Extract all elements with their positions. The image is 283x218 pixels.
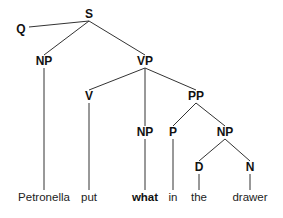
node-d: D	[195, 161, 204, 173]
tree-edge	[89, 68, 145, 90]
tree-edge	[225, 139, 250, 161]
tree-edge	[199, 139, 225, 161]
leaf-what: what	[132, 192, 158, 204]
node-p: P	[169, 126, 177, 138]
node-vp: VP	[137, 55, 153, 67]
leaf-put: put	[81, 192, 97, 204]
node-q: Q	[16, 23, 25, 35]
tree-edge	[29, 21, 89, 27]
tree-edge	[44, 21, 89, 55]
leaf-petronella: Petronella	[18, 192, 70, 204]
tree-edge	[145, 68, 196, 90]
node-s: S	[85, 8, 93, 20]
leaf-in: in	[169, 192, 178, 204]
leaf-the: the	[191, 192, 207, 204]
tree-edge	[89, 21, 145, 55]
node-n: N	[246, 161, 255, 173]
node-v: V	[85, 90, 93, 102]
node-np-object: NP	[137, 126, 154, 138]
tree-edges	[0, 0, 283, 218]
node-pp: PP	[188, 90, 204, 102]
tree-edge	[196, 103, 225, 126]
node-np-pp-object: NP	[217, 126, 234, 138]
node-np-subject: NP	[36, 55, 53, 67]
tree-edge	[173, 103, 196, 126]
leaf-drawer: drawer	[232, 192, 267, 204]
